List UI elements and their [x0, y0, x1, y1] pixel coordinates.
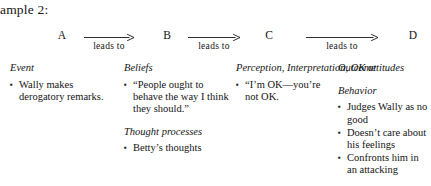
- column-2: Beliefs▪“People ought to behave the way …: [124, 62, 232, 155]
- list-item-text: “People ought to behave the way I think …: [133, 79, 229, 115]
- bullet-icon: ▪: [10, 79, 13, 91]
- chain-node-b: B: [160, 28, 174, 42]
- bullet-list: ▪“I’m OK—you’re not OK.: [236, 79, 332, 104]
- chain-node-a: A: [55, 28, 69, 42]
- bullet-list: ▪Wally makes derogatory remarks.: [10, 79, 115, 104]
- list-item-text: “I’m OK—you’re not OK.: [245, 79, 321, 102]
- list-item: ▪Confronts him in an attacking: [338, 152, 431, 177]
- column-heading: Beliefs: [124, 62, 232, 75]
- bullet-list: ▪Judges Wally as no good▪Doesn’t care ab…: [338, 101, 431, 176]
- bullet-list: ▪“People ought to behave the way I think…: [124, 79, 232, 116]
- bullet-icon: ▪: [338, 152, 341, 164]
- column-4: OutcomeBehavior▪Judges Wally as no good▪…: [338, 62, 431, 177]
- bullet-icon: ▪: [338, 127, 341, 139]
- figure-title: xample 2:: [0, 2, 48, 18]
- chain-arrow-label: leads to: [84, 41, 134, 51]
- causal-chain: ABCDleads toleads toleads to: [0, 28, 431, 58]
- list-item: ▪Judges Wally as no good: [338, 101, 431, 126]
- list-item: ▪“People ought to behave the way I think…: [124, 79, 232, 116]
- list-item: ▪Betty’s thoughts: [124, 142, 232, 154]
- column-heading: Outcome: [338, 62, 431, 75]
- chain-arrow-label: leads to: [306, 41, 378, 51]
- chain-arrow-label: leads to: [188, 41, 240, 51]
- chain-arrow-3: leads to: [306, 28, 378, 54]
- column-heading: Perception, Interpretation, OK attitudes: [236, 62, 332, 75]
- column-heading: Behavior: [338, 85, 431, 98]
- bullet-icon: ▪: [124, 142, 127, 154]
- bullet-icon: ▪: [124, 79, 127, 91]
- list-item-text: Doesn’t care about his feelings: [347, 127, 426, 150]
- bullet-icon: ▪: [236, 79, 239, 91]
- column-heading: Thought processes: [124, 126, 232, 139]
- column-heading: Event: [10, 62, 115, 75]
- list-item-text: Judges Wally as no good: [347, 101, 427, 124]
- list-item: ▪Doesn’t care about his feelings: [338, 127, 431, 152]
- column-3: Perception, Interpretation, OK attitudes…: [236, 62, 332, 104]
- list-item-text: Betty’s thoughts: [133, 142, 202, 153]
- column-1: Event▪Wally makes derogatory remarks.: [10, 62, 115, 104]
- chain-arrow-2: leads to: [188, 28, 240, 54]
- bullet-list: ▪Betty’s thoughts: [124, 142, 232, 154]
- figure-page: xample 2: ABCDleads toleads toleads to E…: [0, 0, 431, 186]
- list-item: ▪Wally makes derogatory remarks.: [10, 79, 115, 104]
- chain-node-c: C: [262, 28, 276, 42]
- list-item-text: Wally makes derogatory remarks.: [19, 79, 104, 102]
- list-item: ▪“I’m OK—you’re not OK.: [236, 79, 332, 104]
- chain-arrow-1: leads to: [84, 28, 134, 54]
- bullet-icon: ▪: [338, 101, 341, 113]
- chain-node-d: D: [406, 28, 420, 42]
- list-item-text: Confronts him in an attacking: [347, 152, 419, 175]
